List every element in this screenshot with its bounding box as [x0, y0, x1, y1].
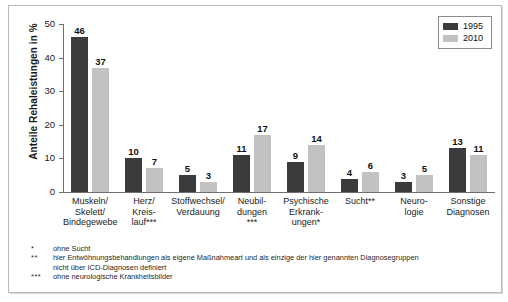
footnote-text: ohne neurologische Krankheitsbilder: [53, 272, 481, 281]
bar-2010: 14: [308, 145, 325, 192]
bar-2010: 37: [92, 68, 109, 192]
category-label: Stoffwechsel/ Verdauung: [171, 196, 225, 217]
bar-value-label: 46: [74, 25, 85, 36]
footnote-marker: **: [31, 253, 53, 262]
bar-value-label: 11: [473, 143, 483, 154]
bar-2010: 5: [416, 175, 433, 192]
y-tick-label: 50: [29, 19, 55, 29]
bar-group: 107: [125, 24, 163, 192]
bar-group: 4637: [71, 24, 109, 192]
footnote-2: ** hier Entwöhnungsbehandlungen als eige…: [31, 253, 481, 262]
bar-1995: 3: [395, 182, 412, 192]
bar-value-label: 14: [311, 133, 322, 144]
legend-swatch-icon-2010: [443, 35, 458, 42]
category-label: Neubil- dungen ***: [225, 196, 279, 228]
bar-value-label: 13: [452, 136, 463, 147]
bar-1995: 10: [125, 158, 142, 192]
legend-label-2010: 2010: [463, 33, 483, 43]
legend-swatch-icon-1995: [443, 23, 458, 30]
bar-group: 1117: [233, 24, 271, 192]
legend-label-1995: 1995: [463, 21, 483, 31]
plot-area: 463710753111791446351311: [63, 24, 495, 192]
footnote-2-continuation: nicht über ICD-Diagnosen definiert: [31, 263, 481, 272]
bar-value-label: 9: [293, 150, 298, 161]
y-tick-label: 20: [29, 120, 55, 130]
bar-1995: 5: [179, 175, 196, 192]
bar-group: 1311: [449, 24, 487, 192]
footnote-3: *** ohne neurologische Krankheitsbilder: [31, 272, 481, 281]
footnotes: * ohne Sucht ** hier Entwöhnungsbehandlu…: [31, 244, 481, 282]
bar-1995: 11: [233, 155, 250, 192]
bar-value-label: 5: [422, 163, 427, 174]
bar-1995: 46: [71, 37, 88, 192]
bar-value-label: 10: [128, 146, 139, 157]
footnote-marker: ***: [31, 272, 53, 281]
y-tick-label: 40: [29, 53, 55, 63]
category-label: Sucht**: [333, 196, 387, 207]
bar-1995: 9: [287, 162, 304, 192]
bar-value-label: 3: [206, 170, 211, 181]
bar-value-label: 7: [152, 156, 157, 167]
chart-screenshot: Anteile Rehaleistungen in % 01020304050 …: [0, 0, 508, 302]
legend-item-1995: 1995: [443, 20, 487, 32]
bar-2010: 11: [470, 155, 487, 192]
bar-group: 46: [341, 24, 379, 192]
footnote-marker: *: [31, 244, 53, 253]
bar-1995: 13: [449, 148, 466, 192]
y-tick-label: 10: [29, 153, 55, 163]
footnote-text: ohne Sucht: [53, 244, 481, 253]
chart-frame: Anteile Rehaleistungen in % 01020304050 …: [8, 5, 502, 293]
category-label: Muskeln/ Skelett/ Bindegewebe: [63, 196, 117, 228]
bar-value-label: 17: [257, 123, 268, 134]
bar-1995: 4: [341, 179, 358, 192]
x-axis-line: [63, 192, 495, 193]
category-label: Herz/ Kreis- lauf***: [117, 196, 171, 228]
bar-group: 35: [395, 24, 433, 192]
bar-group: 914: [287, 24, 325, 192]
y-tick-mark: [59, 192, 64, 193]
y-tick-label: 30: [29, 86, 55, 96]
category-label: Sonstige Diagnosen: [441, 196, 495, 217]
legend-item-2010: 2010: [443, 32, 487, 44]
footnote-text: hier Entwöhnungsbehandlungen als eigene …: [53, 253, 481, 262]
bar-value-label: 6: [368, 160, 373, 171]
bar-value-label: 37: [95, 56, 106, 67]
footnote-1: * ohne Sucht: [31, 244, 481, 253]
category-label: Neuro- logie: [387, 196, 441, 217]
bar-value-label: 3: [401, 170, 406, 181]
bar-2010: 6: [362, 172, 379, 192]
legend: 1995 2010: [438, 16, 492, 49]
bar-2010: 17: [254, 135, 271, 192]
category-label: Psychische Erkrank- ungen*: [279, 196, 333, 228]
bar-2010: 3: [200, 182, 217, 192]
y-tick-label: 0: [29, 187, 55, 197]
bar-value-label: 5: [185, 163, 190, 174]
bar-2010: 7: [146, 168, 163, 192]
bar-group: 53: [179, 24, 217, 192]
bar-value-label: 4: [347, 167, 352, 178]
bar-value-label: 11: [236, 143, 246, 154]
